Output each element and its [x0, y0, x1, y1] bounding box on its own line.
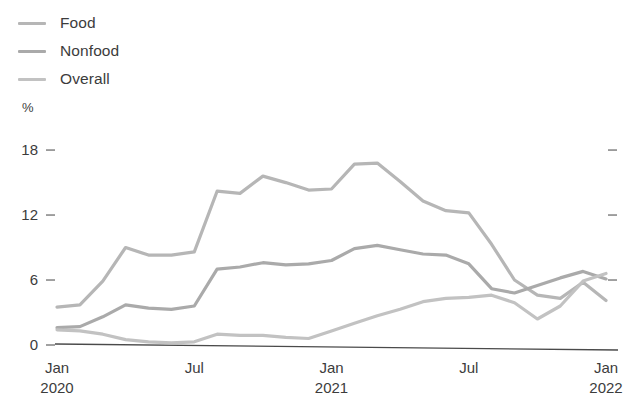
x-axis-tick-label: Jul [429, 358, 509, 378]
x-axis-line [55, 344, 618, 350]
x-axis-tick-year: 2022 [566, 378, 625, 398]
x-axis-tick-month: Jan [45, 359, 69, 376]
x-axis-tick-label: Jan2022 [566, 358, 625, 399]
x-axis-baseline [55, 344, 618, 350]
x-axis-tick-label: Jan2020 [17, 358, 97, 399]
inflation-line-chart: FoodNonfoodOverall % 181260 Jan2020JulJa… [0, 0, 625, 420]
x-axis-tick-label: Jan2021 [292, 358, 372, 399]
x-axis-tick-month: Jul [185, 359, 204, 376]
y-axis-ticks-right [608, 150, 617, 280]
x-axis-tick-month: Jan [319, 359, 343, 376]
y-axis-tick-label: 12 [8, 206, 38, 223]
x-axis-tick-year: 2020 [17, 378, 97, 398]
x-axis-tick-year: 2021 [292, 378, 372, 398]
series-line-food [57, 163, 606, 307]
x-axis-tick-month: Jan [594, 359, 618, 376]
plot-area [0, 0, 625, 420]
y-axis-tick-label: 18 [8, 141, 38, 158]
y-axis-tick-label: 6 [8, 271, 38, 288]
series-paths [57, 163, 606, 343]
y-axis-tick-label: 0 [8, 336, 38, 353]
x-axis-tick-month: Jul [459, 359, 478, 376]
y-axis-ticks-left [46, 150, 55, 345]
x-axis-tick-label: Jul [154, 358, 234, 378]
